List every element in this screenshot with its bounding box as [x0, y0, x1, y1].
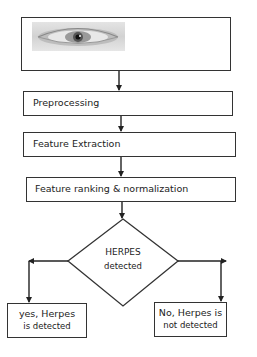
yes-line1: yes, Herpes — [8, 308, 86, 320]
no-line1: No, Herpes is — [155, 307, 226, 319]
decision-line1: HERPES — [88, 246, 158, 258]
yes-line2: is detected — [8, 320, 86, 332]
yes-outcome-box: yes, Herpes is detected — [7, 303, 87, 338]
decision-label: HERPES detected — [88, 246, 158, 272]
no-outcome-box: No, Herpes is not detected — [154, 302, 227, 337]
decision-line2: detected — [88, 260, 158, 272]
no-line2: not detected — [155, 319, 226, 331]
